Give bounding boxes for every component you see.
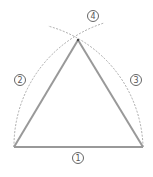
apex-point bbox=[77, 39, 79, 41]
arc-3-dashed bbox=[48, 26, 143, 147]
svg-text:2: 2 bbox=[17, 76, 22, 85]
step-label-1: 1 bbox=[73, 153, 84, 164]
svg-text:4: 4 bbox=[90, 12, 95, 21]
svg-text:3: 3 bbox=[133, 76, 138, 85]
step-label-4: 4 bbox=[88, 11, 99, 22]
equilateral-triangle-diagram: 1 2 3 4 bbox=[0, 0, 153, 177]
arc-2-dashed bbox=[14, 23, 104, 147]
left-side bbox=[14, 40, 78, 147]
step-label-2: 2 bbox=[15, 75, 26, 86]
step-label-3: 3 bbox=[131, 75, 142, 86]
right-side bbox=[78, 40, 143, 147]
svg-text:1: 1 bbox=[75, 154, 80, 163]
